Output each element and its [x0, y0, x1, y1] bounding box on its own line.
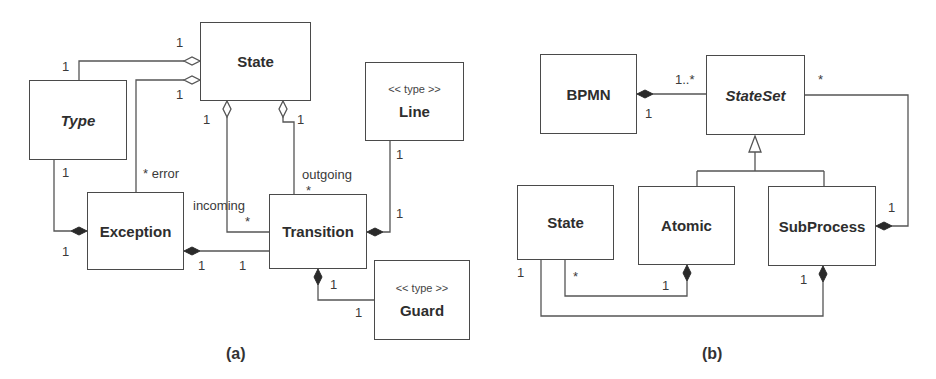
multiplicity-label: 1: [888, 201, 895, 214]
class-name: StateSet: [725, 87, 785, 104]
class-state[interactable]: State: [200, 22, 311, 101]
multiplicity-label: 1: [662, 279, 669, 292]
multiplicity-label: 1: [330, 278, 337, 291]
caption-b: (b): [702, 345, 722, 363]
class-name: State: [547, 214, 584, 231]
class-exception[interactable]: Exception: [87, 192, 184, 270]
multiplicity-label: 1: [396, 207, 403, 220]
multiplicity-label: 1: [203, 113, 210, 126]
role-label: * error: [143, 167, 179, 180]
class-guard[interactable]: << type >> Guard: [374, 260, 470, 340]
stereotype: << type >>: [396, 282, 449, 294]
class-name: Guard: [400, 302, 444, 319]
multiplicity-label: *: [573, 270, 578, 283]
class-transition[interactable]: Transition: [269, 194, 367, 269]
composition-diamond-icon: [71, 227, 87, 235]
multiplicity-label: 1: [800, 273, 807, 286]
stereotype: << type >>: [388, 83, 441, 95]
class-bpmn[interactable]: BPMN: [540, 54, 637, 134]
multiplicity-label: 1: [517, 266, 524, 279]
composition-diamond-icon: [637, 90, 653, 98]
multiplicity-label: 1..*: [675, 73, 695, 86]
composition-diamond-icon: [819, 266, 827, 282]
class-name: SubProcess: [779, 218, 866, 235]
class-name: Line: [399, 103, 430, 120]
multiplicity-label: 1: [176, 36, 183, 49]
multiplicity-label: 1: [355, 306, 362, 319]
role-label: outgoing: [302, 168, 352, 181]
class-atomic[interactable]: Atomic: [638, 186, 735, 265]
aggregation-diamond-icon: [223, 101, 231, 117]
class-name: Exception: [100, 223, 172, 240]
composition-diamond-icon: [683, 265, 691, 281]
generalization-triangle-icon: [749, 136, 761, 152]
multiplicity-label: 1: [62, 245, 69, 258]
aggregation-diamond-icon: [184, 76, 200, 84]
multiplicity-label: 1: [198, 259, 205, 272]
multiplicity-label: 1: [297, 113, 304, 126]
aggregation-diamond-icon: [279, 101, 287, 117]
caption-a: (a): [226, 345, 246, 363]
class-subprocess[interactable]: SubProcess: [768, 186, 876, 266]
multiplicity-label: 1: [62, 166, 69, 179]
aggregation-diamond-icon: [184, 57, 200, 65]
class-name: State: [237, 53, 274, 70]
multiplicity-label: 1: [239, 259, 246, 272]
composition-diamond-icon: [367, 228, 383, 236]
class-name: BPMN: [566, 86, 610, 103]
multiplicity-label: 1: [62, 60, 69, 73]
multiplicity-label: 1: [396, 148, 403, 161]
multiplicity-label: *: [245, 215, 250, 228]
role-label: incoming: [193, 199, 245, 212]
class-line[interactable]: << type >> Line: [365, 62, 464, 141]
class-name: Type: [61, 112, 95, 129]
class-stateset[interactable]: StateSet: [706, 55, 805, 135]
composition-diamond-icon: [876, 222, 892, 230]
composition-diamond-icon: [314, 269, 322, 285]
multiplicity-label: 1: [176, 88, 183, 101]
class-type[interactable]: Type: [29, 80, 127, 160]
multiplicity-label: *: [818, 73, 823, 86]
class-name: Atomic: [661, 217, 712, 234]
class-name: Transition: [282, 223, 354, 240]
multiplicity-label: *: [306, 184, 311, 197]
composition-diamond-icon: [184, 247, 200, 255]
multiplicity-label: 1: [645, 107, 652, 120]
class-state-b[interactable]: State: [517, 185, 614, 260]
